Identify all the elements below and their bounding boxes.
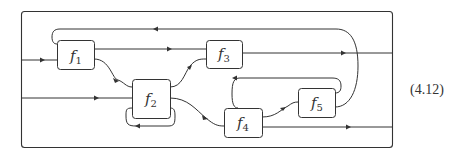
arrow-icon [346, 125, 351, 130]
box-f1: f1 [58, 41, 95, 70]
arrow-icon [135, 124, 140, 129]
arrow-icon [341, 51, 346, 56]
string-diagram: f1 f2 f3 f4 f5 [0, 0, 463, 152]
arrow-icon [153, 27, 158, 32]
wire-f2-to-f3 [170, 59, 206, 87]
box-f2: f2 [133, 80, 171, 119]
wire-f2-to-f4 [170, 98, 224, 126]
box-f4: f4 [225, 109, 263, 138]
wire-f1-to-f2 [94, 59, 132, 87]
wire-f4-to-f5 [262, 102, 298, 117]
box-f3: f3 [207, 41, 243, 69]
arrow-icon [40, 58, 45, 63]
box-f5: f5 [299, 89, 336, 118]
equation-number: (4.12) [410, 82, 444, 98]
arrow-icon [167, 47, 172, 52]
arrow-icon [94, 96, 99, 101]
